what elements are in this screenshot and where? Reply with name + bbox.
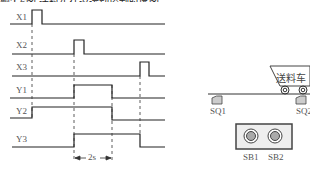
y3-waveform [12,134,165,147]
y2-waveform [10,107,165,120]
signal-label-y3: Y3 [16,134,27,144]
delay-label: 2s [88,152,96,162]
x3-waveform [12,62,165,76]
signal-label-x3: X3 [16,62,27,72]
button-label-sb2: SB2 [268,152,284,162]
signal-label-y2: Y2 [16,106,27,116]
timing-diagram [0,0,310,174]
signal-label-y1: Y1 [16,85,27,95]
x1-waveform [10,10,165,24]
limit-switch-sq2: SQ2 [296,106,310,116]
signal-label-x2: X2 [16,40,27,50]
y1-waveform [10,85,165,98]
limit-switch-sq1: SQ1 [210,106,226,116]
x2-waveform [12,40,165,54]
cart-label: 送料车 [276,70,306,85]
button-label-sb1: SB1 [243,152,259,162]
signal-label-x1: X1 [16,12,27,22]
